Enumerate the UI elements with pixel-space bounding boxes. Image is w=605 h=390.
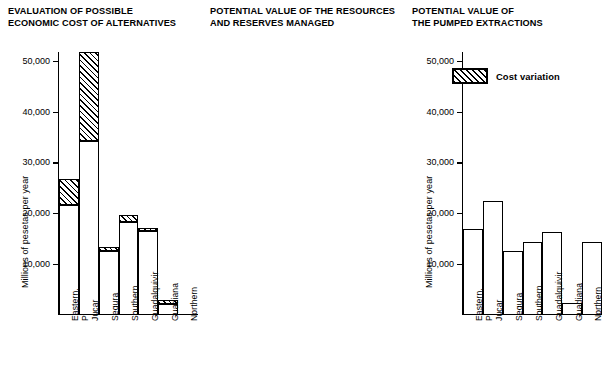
bar-slot[interactable]: Eastern, Pyrenees <box>59 47 79 314</box>
y-tick-label: 50,000 <box>22 56 50 65</box>
bar-group: Eastern, PyreneesJucarSeguraSouthernGuad… <box>59 48 198 314</box>
panel-economic-cost: EVALUATION OF POSSIBLE ECONOMIC COST OF … <box>0 0 202 390</box>
y-tick <box>53 162 58 163</box>
bar-slot[interactable]: Southern <box>119 47 139 314</box>
y-tick-label: 40,000 <box>22 107 50 116</box>
bar-slot[interactable]: Guadiana <box>158 47 178 314</box>
panel-title: POTENTIAL VALUE OF THE PUMPED EXTRACTION… <box>412 6 543 29</box>
figure-multi-panel-bar-charts: EVALUATION OF POSSIBLE ECONOMIC COST OF … <box>0 0 605 390</box>
y-tick <box>53 213 58 214</box>
bar-segment-base[interactable] <box>79 141 99 314</box>
x-tick-label: Northern <box>190 287 200 321</box>
panel-resources-reserves: POTENTIAL VALUE OF THE RESOURCES AND RES… <box>202 0 404 390</box>
plot-area: 10,00020,00030,00040,00050,000 Eastern, … <box>58 48 198 315</box>
bar-segment-cost-variation[interactable] <box>138 228 158 232</box>
bar-segment-cost-variation[interactable] <box>59 179 79 204</box>
panel-title: EVALUATION OF POSSIBLE ECONOMIC COST OF … <box>8 6 176 29</box>
legend-label: Cost variation <box>496 71 560 82</box>
bar-slot[interactable]: Jucar <box>79 47 99 314</box>
y-tick <box>53 112 58 113</box>
y-tick-label: 10,000 <box>22 260 50 269</box>
y-tick <box>53 264 58 265</box>
cost-variation-swatch-icon <box>452 68 488 84</box>
bar-segment-cost-variation[interactable] <box>99 247 119 251</box>
panel-pumped-extractions: POTENTIAL VALUE OF THE PUMPED EXTRACTION… <box>404 0 605 390</box>
y-axis-label: Millions of pesetas per year <box>20 176 30 288</box>
y-tick-label: 30,000 <box>22 158 50 167</box>
y-tick <box>53 61 58 62</box>
panel-title: POTENTIAL VALUE OF THE RESOURCES AND RES… <box>210 6 395 29</box>
y-tick-label: 20,000 <box>22 209 50 218</box>
bar-slot[interactable]: Guadalquivir <box>138 47 158 314</box>
bar-slot[interactable]: Segura <box>99 47 119 314</box>
legend: Cost variation <box>452 68 560 84</box>
bar-segment-cost-variation[interactable] <box>79 52 99 141</box>
bar-slot[interactable]: Northern <box>178 47 198 314</box>
bar-segment-cost-variation[interactable] <box>119 215 139 223</box>
